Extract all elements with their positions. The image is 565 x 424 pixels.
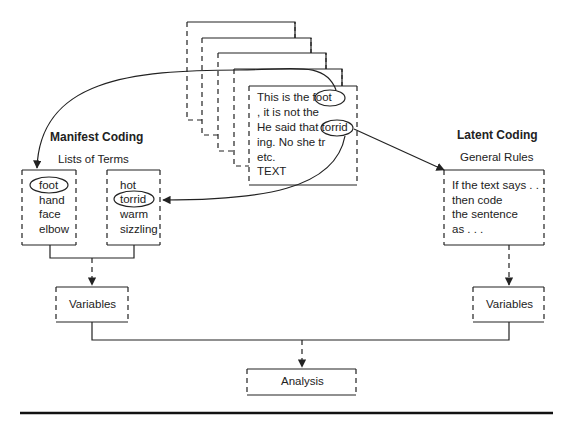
- term: face: [39, 207, 61, 222]
- term: elbow: [39, 222, 69, 237]
- manifest-subtitle: Lists of Terms: [58, 152, 129, 167]
- latent-subtitle: General Rules: [460, 150, 534, 165]
- term: foot: [39, 178, 58, 193]
- rule-line: If the text says . . .: [452, 178, 545, 193]
- manifest-variables: Variables: [69, 297, 116, 312]
- doc-line: ing. No she tr: [257, 135, 325, 150]
- doc-line: TEXT: [257, 164, 286, 179]
- rule-line: as . . .: [452, 222, 483, 237]
- term: hot: [120, 178, 136, 193]
- term: sizzling: [120, 222, 158, 237]
- doc-line: etc.: [257, 150, 276, 165]
- term: torrid: [120, 192, 146, 207]
- doc-line: He said that torrid: [257, 120, 348, 135]
- doc-line: , it is not the: [257, 105, 319, 120]
- analysis-label: Analysis: [281, 374, 324, 389]
- latent-variables: Variables: [486, 297, 533, 312]
- term: warm: [120, 207, 148, 222]
- latent-title: Latent Coding: [457, 128, 538, 143]
- doc-line: This is the foot: [257, 90, 332, 105]
- rule-line: the sentence: [452, 207, 518, 222]
- rule-line: then code: [452, 193, 503, 208]
- manifest-title: Manifest Coding: [50, 130, 143, 145]
- term: hand: [39, 193, 65, 208]
